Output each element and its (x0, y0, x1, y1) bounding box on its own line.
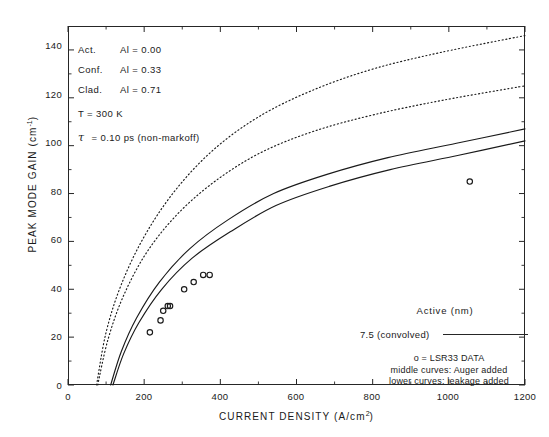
legend-notes: o = LSR33 DATA middle curves: Auger adde… (360, 353, 538, 388)
y-tick-label-120: 120 (34, 89, 62, 100)
legend-note-middle: middle curves: Auger added (360, 365, 538, 377)
annotation-tau-text: = 0.10 ps (non-markoff) (92, 132, 200, 143)
annotation-row-act: Act.Al = 0.00 (78, 40, 200, 60)
x-tick-label-1200: 1200 (505, 391, 545, 402)
legend-line-swatch (443, 334, 528, 335)
tau-symbol: τ (78, 131, 85, 144)
y-tick-label-100: 100 (34, 137, 62, 148)
annotation-temperature: T = 300 K (78, 108, 123, 119)
figure-canvas: PEAK MODE GAIN (cm-1) CURRENT DENSITY (A… (0, 0, 549, 437)
y-tick-label-0: 0 (34, 380, 62, 391)
legend-note-data: o = LSR33 DATA (360, 353, 538, 365)
x-tick-label-200: 200 (124, 391, 164, 402)
legend-entry-label: 7.5 (convolved) (360, 329, 429, 340)
annotation-row-temperature: T = 300 K (78, 104, 200, 124)
annotation-label-act: Act. (78, 40, 120, 60)
legend-entry-active-75: 7.5 (convolved) (360, 329, 530, 340)
annotation-row-clad: Clad.Al = 0.71 (78, 80, 200, 100)
y-tick-label-20: 20 (34, 331, 62, 342)
annotation-text-clad: Al = 0.71 (120, 84, 161, 95)
legend-note-lower: lower curves: leakage added (360, 376, 538, 388)
x-axis-title-close: ) (370, 411, 374, 422)
y-tick-label-60: 60 (34, 234, 62, 245)
x-tick-label-1000: 1000 (428, 391, 468, 402)
parameter-annotations: Act.Al = 0.00 Conf.Al = 0.33 Clad.Al = 0… (78, 40, 200, 148)
legend-header: Active (nm) (360, 305, 530, 316)
x-tick-label-400: 400 (200, 391, 240, 402)
annotation-text-act: Al = 0.00 (120, 44, 161, 55)
y-axis-title-exponent: -1 (26, 120, 33, 126)
y-tick-label-80: 80 (34, 186, 62, 197)
x-axis-title: CURRENT DENSITY (A/cm2) (68, 410, 525, 422)
x-axis-title-text: CURRENT DENSITY (A/cm (219, 411, 366, 422)
legend: Active (nm) 7.5 (convolved) o = LSR33 DA… (360, 305, 538, 388)
x-tick-label-600: 600 (276, 391, 316, 402)
annotation-row-conf: Conf.Al = 0.33 (78, 60, 200, 80)
annotation-label-clad: Clad. (78, 80, 120, 100)
x-tick-label-0: 0 (48, 391, 88, 402)
y-axis-title: PEAK MODE GAIN (cm-1) (26, 89, 38, 279)
x-tick-label-800: 800 (352, 391, 392, 402)
annotation-label-conf: Conf. (78, 60, 120, 80)
y-tick-label-40: 40 (34, 283, 62, 294)
y-tick-label-140: 140 (34, 40, 62, 51)
y-axis-title-close: ) (27, 116, 38, 120)
annotation-text-conf: Al = 0.33 (120, 64, 161, 75)
annotation-row-tau: τ = 0.10 ps (non-markoff) (78, 128, 200, 148)
